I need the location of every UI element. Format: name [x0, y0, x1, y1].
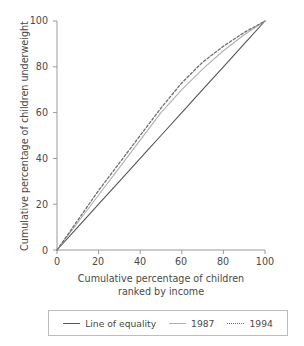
legend-item-line-of-equality: Line of equality	[63, 318, 156, 329]
legend-item-1987: 1987	[169, 318, 214, 329]
legend-item-1994: 1994	[227, 318, 272, 329]
legend-label-line-of-equality: Line of equality	[85, 318, 156, 329]
legend-swatch-line-of-equality	[63, 319, 80, 327]
legend-label-1987: 1987	[191, 318, 214, 329]
series-lines	[57, 21, 265, 250]
x-axis-label-line1: Cumulative percentage of children	[46, 272, 276, 285]
x-axis-label: Cumulative percentage of children ranked…	[46, 272, 276, 298]
legend-label-1994: 1994	[249, 318, 272, 329]
series-line-line-of-equality	[57, 21, 265, 250]
legend-swatch-1994	[227, 319, 244, 327]
x-axis-label-line2: ranked by income	[46, 285, 276, 298]
legend-swatch-1987	[169, 319, 186, 327]
lorenz-curve-figure: Cumulative percentage of children underw…	[0, 0, 304, 346]
chart-legend: Line of equality 1987 1994	[48, 310, 288, 336]
